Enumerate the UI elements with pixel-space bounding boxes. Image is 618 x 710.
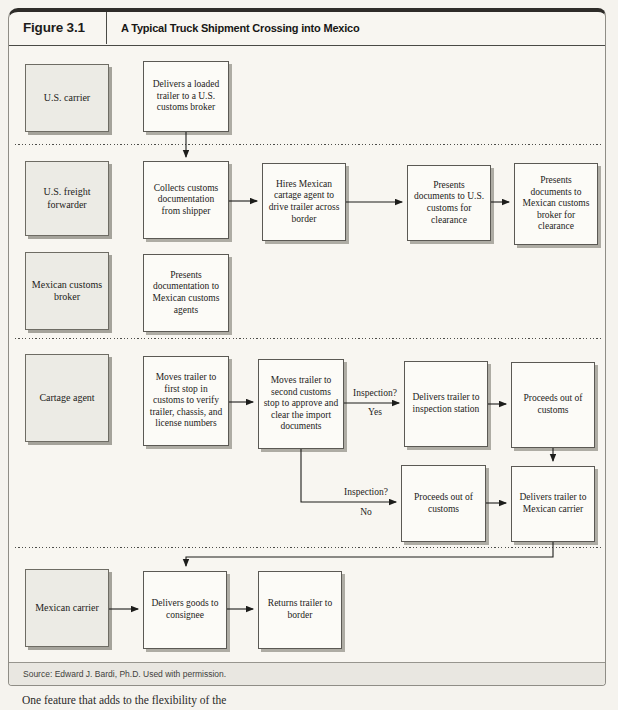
node-presents-documents-us-customs: Presents documents to U.S. customs for c… <box>407 165 491 241</box>
inspection-no-answer: No <box>336 507 396 517</box>
node-delivers-trailer-mexican-carrier: Delivers trailer to Mexican carrier <box>511 466 595 542</box>
node-collects-customs-documentation: Collects customs documentation from ship… <box>143 161 229 239</box>
node-presents-documents-mexican-broker: Presents documents to Mexican customs br… <box>514 163 598 245</box>
row-label-us-carrier: U.S. carrier <box>25 64 109 132</box>
row-separator-3 <box>15 547 601 548</box>
row-separator-1 <box>15 144 601 145</box>
figure-panel: Figure 3.1 A Typical Truck Shipment Cros… <box>8 8 606 686</box>
node-moves-trailer-first-stop: Moves trailer to first stop in customs t… <box>143 356 229 446</box>
figure-title: A Typical Truck Shipment Crossing into M… <box>121 12 360 44</box>
header-divider <box>106 12 107 44</box>
node-hires-mexican-cartage-agent: Hires Mexican cartage agent to drive tra… <box>262 163 346 241</box>
row-label-us-freight-forwarder: U.S. freight forwarder <box>25 161 109 236</box>
node-presents-documentation-mexican-agents: Presents documentation to Mexican custom… <box>143 254 229 332</box>
source-bar: Source: Edward J. Bardi, Ph.D. Used with… <box>9 662 605 685</box>
page: { "header": { "figure_number": "Figure 3… <box>0 0 618 710</box>
inspection-yes-question: Inspection? <box>345 388 405 398</box>
node-proceeds-out-of-customs-yes: Proceeds out of customs <box>511 362 595 448</box>
node-returns-trailer-border: Returns trailer to border <box>258 571 342 649</box>
row-separator-2 <box>15 338 601 339</box>
figure-header: Figure 3.1 A Typical Truck Shipment Cros… <box>9 12 605 46</box>
row-label-mexican-carrier: Mexican carrier <box>25 569 109 647</box>
node-delivers-loaded-trailer: Delivers a loaded trailer to a U.S. cust… <box>143 61 229 132</box>
row-label-mexican-customs-broker: Mexican customs broker <box>25 252 109 330</box>
node-proceeds-out-of-customs-no: Proceeds out of customs <box>401 465 486 542</box>
inspection-yes-answer: Yes <box>345 407 405 417</box>
node-delivers-goods-consignee: Delivers goods to consignee <box>143 571 227 649</box>
body-text: One feature that adds to the flexibility… <box>22 694 226 706</box>
row-label-cartage-agent: Cartage agent <box>25 354 109 442</box>
inspection-no-question: Inspection? <box>336 487 396 497</box>
node-moves-trailer-second-stop: Moves trailer to second customs stop to … <box>258 359 344 449</box>
node-delivers-trailer-inspection-station: Delivers trailer to inspection station <box>404 361 488 447</box>
figure-number: Figure 3.1 <box>23 12 85 44</box>
